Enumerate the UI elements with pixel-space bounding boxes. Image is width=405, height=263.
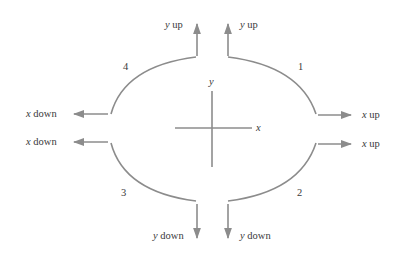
q3-vertical-label: y down <box>152 230 184 241</box>
quadrant-diagram: x y 1 2 3 4 y up y up x up x up x down x… <box>0 0 405 263</box>
arc-quadrant-2 <box>228 143 316 201</box>
y-axis-label: y <box>208 76 214 87</box>
quadrant-1-label: 1 <box>298 61 303 72</box>
x-axis-label: x <box>255 122 261 133</box>
q1-vertical-label: y up <box>239 19 258 30</box>
quadrant-3-label: 3 <box>121 187 126 198</box>
q2-horizontal-label: x up <box>361 138 380 149</box>
q3-horizontal-label: x down <box>25 136 57 147</box>
quadrant-4-label: 4 <box>123 61 129 72</box>
q2-vertical-label: y down <box>239 230 271 241</box>
q4-vertical-label: y up <box>164 19 183 30</box>
q1-horizontal-label: x up <box>361 109 380 120</box>
q4-horizontal-label: x down <box>25 108 57 119</box>
quadrant-2-label: 2 <box>297 187 302 198</box>
